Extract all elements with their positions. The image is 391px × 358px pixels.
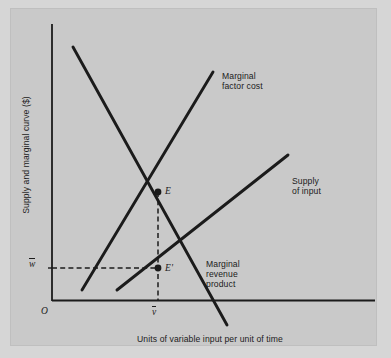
marker-point-E [155,189,162,196]
annotation-marginal-revenue-product: Marginal revenue product [206,259,240,290]
wbar-glyph: w [29,259,35,269]
curve-marginal-factor-cost [82,72,213,290]
x-axis-label: Units of variable input per unit of time [60,334,360,344]
label-quantity-tick: v [152,307,156,317]
annotation-supply-of-input: Supply of input [292,176,321,196]
vbar-glyph: v [152,307,156,317]
label-origin: O [41,306,48,316]
marker-point-E-prime [155,265,162,272]
label-point-E: E [165,186,171,196]
annotation-marginal-factor-cost: Marginal factor cost [222,71,263,91]
figure-container: Supply and marginal curve ($) Units of v… [0,0,391,358]
label-wage-tick: w [29,259,35,269]
label-point-E-prime: E' [165,263,173,273]
y-axis-label: Supply and marginal curve ($) [21,55,31,255]
chart-canvas [0,0,391,358]
